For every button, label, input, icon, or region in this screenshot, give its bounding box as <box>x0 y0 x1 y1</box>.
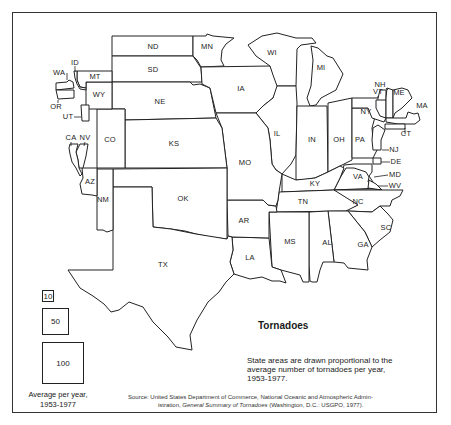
state-label-wi: WI <box>267 48 277 57</box>
legend-caption: Average per year, 1953-1977 <box>20 390 96 409</box>
state-label-nh: NH <box>374 80 385 89</box>
state-nj <box>372 125 385 150</box>
state-mi <box>307 46 343 106</box>
state-label-va: VA <box>353 172 363 181</box>
source-line2-start: istration, <box>158 402 182 408</box>
state-label-ar: AR <box>239 216 250 225</box>
state-label-sd: SD <box>148 65 159 74</box>
state-label-wa: WA <box>53 68 65 77</box>
state-label-md: MD <box>389 170 401 179</box>
legend-caption-line2: 1953-1977 <box>40 400 76 409</box>
source-publication-title: General Summary of Tornadoes <box>182 402 267 408</box>
source-line2-end: (Washington, D.C.: USGPO, 1977). <box>268 402 364 408</box>
state-label-nv: NV <box>80 133 91 142</box>
legend-square-100: 100 <box>42 342 84 384</box>
state-label-ky: KY <box>310 179 320 188</box>
state-mn <box>193 34 234 67</box>
state-label-id: ID <box>71 58 79 67</box>
state-de <box>373 158 381 164</box>
state-label-az: AZ <box>85 177 95 186</box>
state-label-nc: NC <box>352 197 364 206</box>
state-label-ma: MA <box>416 101 428 110</box>
state-label-ny: NY <box>361 107 372 116</box>
state-label-wv: WV <box>389 181 401 190</box>
map-caption: State areas are drawn proportional to th… <box>247 356 397 383</box>
state-wa <box>56 80 74 90</box>
source-citation: Source: United States Department of Comm… <box>128 393 428 409</box>
state-label-ga: GA <box>357 240 368 249</box>
map-title: Tornadoes <box>258 320 308 331</box>
state-label-ms: MS <box>284 237 296 246</box>
state-label-al: AL <box>322 238 332 247</box>
leader-line <box>374 175 388 177</box>
state-label-in: IN <box>308 135 316 144</box>
state-ut <box>81 105 89 121</box>
state-label-de: DE <box>391 157 402 166</box>
legend-caption-line1: Average per year, <box>28 390 87 399</box>
state-label-la: LA <box>245 253 255 262</box>
state-label-mi: MI <box>317 63 326 72</box>
state-wv <box>368 180 382 190</box>
source-line1: Source: United States Department of Comm… <box>128 394 373 400</box>
state-or <box>56 90 74 99</box>
source-line2: istration, General Summary of Tornadoes … <box>128 401 428 409</box>
state-label-mt: MT <box>89 72 100 81</box>
state-label-mn: MN <box>201 42 213 51</box>
state-label-wy: WY <box>93 90 105 99</box>
state-ar <box>227 200 277 238</box>
state-label-ks: KS <box>169 139 179 148</box>
state-label-ne: NE <box>155 97 166 106</box>
state-label-ia: IA <box>237 84 245 93</box>
state-label-nm: NM <box>97 195 109 204</box>
state-label-co: CO <box>104 135 116 144</box>
state-label-sc: SC <box>381 223 392 232</box>
state-label-mo: MO <box>239 158 251 167</box>
state-label-ut: UT <box>63 112 74 121</box>
legend-square-10: 10 <box>42 290 54 302</box>
states-layer <box>56 33 420 350</box>
state-label-pa: PA <box>355 135 365 144</box>
state-label-tx: TX <box>158 260 168 269</box>
state-label-ca: CA <box>66 133 77 142</box>
state-label-or: OR <box>50 102 62 111</box>
state-label-oh: OH <box>333 135 345 144</box>
state-label-ct: CT <box>401 129 412 138</box>
state-label-me: ME <box>393 88 405 97</box>
state-nh <box>386 88 393 118</box>
legend-square-50: 50 <box>42 308 69 335</box>
state-label-nd: ND <box>147 42 159 51</box>
state-label-il: IL <box>274 129 281 138</box>
state-label-nj: NJ <box>389 145 399 154</box>
state-label-tn: TN <box>298 197 308 206</box>
state-label-ok: OK <box>177 194 188 203</box>
